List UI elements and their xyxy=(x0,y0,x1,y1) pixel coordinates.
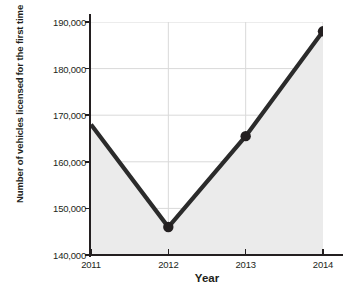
y-axis-tick-label: 190,000 xyxy=(34,17,86,28)
line-chart: Number of vehicles licensed for the firs… xyxy=(0,0,345,293)
y-axis-tick-labels: 140,000150,000160,000170,000180,000190,0… xyxy=(30,0,86,293)
y-axis-tick-label: 150,000 xyxy=(34,203,86,214)
plot-area xyxy=(91,22,323,255)
plot-svg xyxy=(91,22,323,255)
y-axis-tick-mark xyxy=(85,114,91,116)
y-axis-tick-mark xyxy=(85,21,91,23)
data-point-marker xyxy=(163,222,173,232)
y-axis-title-line-1: Number of vehicles licensed xyxy=(14,77,25,203)
area-fill xyxy=(91,31,323,255)
y-axis-title-line-2: for the first time xyxy=(14,5,25,76)
data-point-marker xyxy=(240,131,250,141)
x-axis-tick-mark xyxy=(245,249,247,255)
y-axis-tick-mark xyxy=(85,68,91,70)
y-axis-tick-label: 160,000 xyxy=(34,156,86,167)
y-axis-tick-mark xyxy=(85,208,91,210)
x-axis-tick-mark xyxy=(168,249,170,255)
x-axis-title: Year xyxy=(91,272,323,284)
y-axis-tick-mark xyxy=(85,161,91,163)
y-axis-tick-label: 170,000 xyxy=(34,110,86,121)
x-axis-tick-mark xyxy=(90,249,92,255)
y-axis-tick-label: 180,000 xyxy=(34,63,86,74)
x-axis-line xyxy=(89,254,343,256)
x-axis-tick-label: 2012 xyxy=(145,259,191,270)
x-axis-tick-label: 2011 xyxy=(68,259,114,270)
x-axis-tick-label: 2014 xyxy=(300,259,345,270)
x-axis-tick-mark xyxy=(322,249,324,255)
y-axis-line xyxy=(89,14,91,257)
x-axis-tick-label: 2013 xyxy=(223,259,269,270)
